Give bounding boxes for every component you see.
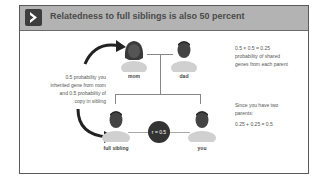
sibling-bar (115, 94, 200, 95)
dad-avatar-icon (170, 38, 198, 72)
left-line-2: inherited gene from mom (26, 81, 106, 89)
header-bar: Relatedness to full siblings is also 50 … (20, 6, 308, 31)
mom-avatar-icon (120, 38, 148, 72)
right2-line-1: Since you have two (235, 101, 307, 109)
right2-line-2: parents: (235, 109, 307, 117)
right1-line-3: genes from each parent (235, 60, 307, 68)
chevron-right-icon (25, 9, 42, 26)
slide-title: Relatedness to full siblings is also 50 … (50, 11, 245, 21)
mom-label: mom (114, 73, 154, 79)
left-line-3: and 0.5 probability of (26, 89, 106, 97)
descent-line (160, 54, 161, 94)
left-line-1: 0.5 probability you (26, 73, 106, 81)
left-line-4: copy in sibling (26, 97, 106, 105)
right1-line-2: probability of shared (235, 52, 307, 60)
sibling-drop (115, 94, 116, 104)
left-explanation: 0.5 probability you inherited gene from … (26, 73, 106, 105)
right-explanation-2: Since you have two parents: 0.25 + 0.25 … (235, 101, 307, 128)
sibling-label: full sibling (96, 145, 136, 151)
right1-line-1: 0.5 × 0.5 = 0.25 (235, 44, 307, 52)
you-label: you (182, 145, 222, 151)
dad-label: dad (164, 73, 204, 79)
relatedness-badge: r = 0.5 (148, 121, 170, 143)
you-avatar-icon (187, 108, 217, 142)
diagram-frame: Relatedness to full siblings is also 50 … (19, 5, 309, 174)
right2-line-3: 0.25 + 0.25 = 0.5 (235, 120, 307, 128)
sibling-avatar-icon (101, 108, 131, 142)
right-explanation-1: 0.5 × 0.5 = 0.25 probability of shared g… (235, 44, 307, 68)
you-drop (200, 94, 201, 104)
